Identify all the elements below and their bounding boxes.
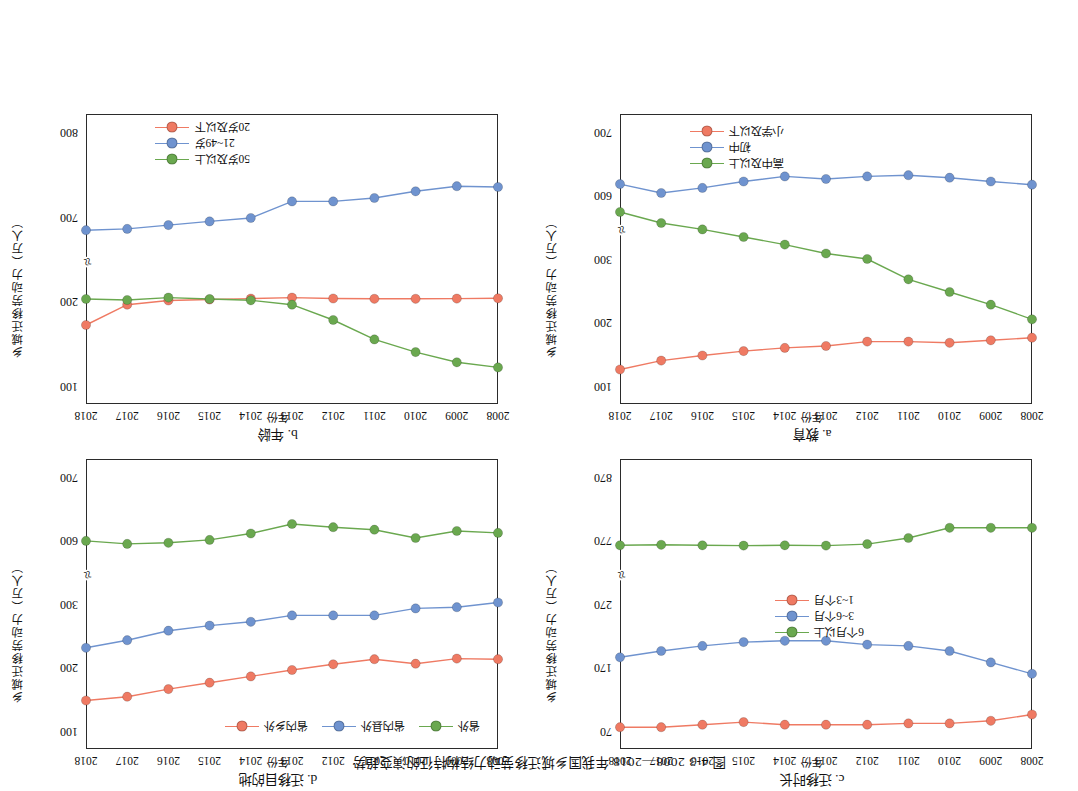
legend-item[interactable]: 20岁及以下	[156, 120, 251, 136]
legend-label: 省外	[456, 719, 480, 735]
data-point	[904, 275, 913, 284]
legend-item[interactable]: 3~6个月	[775, 609, 864, 625]
data-point	[780, 240, 789, 249]
data-point	[863, 337, 872, 346]
legend-swatch-line	[419, 727, 453, 728]
legend-swatch-dot	[702, 126, 713, 137]
legend-swatch-dot	[787, 627, 798, 638]
legend-swatch-dot	[702, 158, 713, 169]
data-point	[164, 221, 173, 230]
legend-label: 省内县外	[359, 719, 405, 735]
data-point	[411, 533, 420, 542]
data-point	[904, 719, 913, 728]
legend-swatch-line	[156, 128, 190, 129]
data-point	[411, 604, 420, 613]
legend-label: 小学及以下	[727, 124, 784, 140]
data-point	[863, 540, 872, 549]
legend-swatch-line	[225, 727, 259, 728]
data-point	[1027, 315, 1036, 324]
legend-swatch-dot	[167, 154, 178, 165]
legend-label: 21~49岁	[193, 136, 235, 152]
data-point	[657, 646, 666, 655]
legend-label: 6个月以上	[812, 625, 864, 641]
data-point	[1027, 523, 1036, 532]
panel-destination: d. 迁移目的地 年份 乡城迁移劳动力（万人） 100200300600700≈…	[18, 361, 538, 791]
legend-swatch-dot	[237, 721, 248, 732]
legend-item[interactable]: 省内县外	[322, 719, 405, 735]
legend-item[interactable]: 省内乡外	[225, 719, 308, 735]
data-point	[986, 336, 995, 345]
data-point	[123, 636, 132, 645]
data-point	[904, 533, 913, 542]
legend-swatch-line	[156, 160, 190, 161]
legend-label: 高中及以上	[727, 156, 784, 172]
data-point	[615, 723, 624, 732]
data-point	[370, 525, 379, 534]
data-point	[287, 300, 296, 309]
data-point	[123, 539, 132, 548]
data-point	[452, 182, 461, 191]
data-point	[739, 638, 748, 647]
legend-swatch-dot	[787, 611, 798, 622]
data-point	[1027, 180, 1036, 189]
legend-swatch-line	[775, 601, 809, 602]
legend-item[interactable]: 50岁及以上	[156, 152, 251, 168]
data-point	[821, 174, 830, 183]
data-point	[81, 696, 90, 705]
legend-item[interactable]: 21~49岁	[156, 136, 251, 152]
data-point	[986, 177, 995, 186]
data-point	[945, 338, 954, 347]
data-point	[205, 678, 214, 687]
data-point	[657, 218, 666, 227]
data-point	[945, 646, 954, 655]
legend-swatch-dot	[702, 142, 713, 153]
legend-label: 省内乡外	[262, 719, 308, 735]
legend-item[interactable]: 初中	[690, 140, 784, 156]
data-point	[615, 653, 624, 662]
data-point	[863, 254, 872, 263]
legend-item[interactable]: 6个月以上	[775, 625, 864, 641]
data-point	[287, 665, 296, 674]
data-point	[287, 197, 296, 206]
data-point	[370, 655, 379, 664]
data-point	[1027, 669, 1036, 678]
data-point	[615, 207, 624, 216]
legend-swatch-dot	[431, 721, 442, 732]
data-point	[657, 540, 666, 549]
data-point	[698, 351, 707, 360]
data-point	[821, 341, 830, 350]
series-line-d-0	[86, 659, 498, 701]
data-point	[780, 172, 789, 181]
data-point	[657, 188, 666, 197]
data-point	[123, 224, 132, 233]
legend-swatch-dot	[167, 122, 178, 133]
data-point	[246, 672, 255, 681]
data-point	[493, 655, 502, 664]
data-point	[81, 226, 90, 235]
data-point	[246, 529, 255, 538]
legend-swatch-line	[322, 727, 356, 728]
data-point	[205, 621, 214, 630]
data-point	[246, 617, 255, 626]
legend-label: 20岁及以下	[193, 120, 251, 136]
data-point	[698, 183, 707, 192]
data-point	[411, 294, 420, 303]
legend-swatch-dot	[787, 595, 798, 606]
legend-item[interactable]: 高中及以上	[690, 156, 784, 172]
legend-item[interactable]: 1~3个月	[775, 593, 864, 609]
data-point	[411, 348, 420, 357]
legend-item[interactable]: 省外	[419, 719, 480, 735]
panel-d-legend: 省外省内县外省内乡外	[225, 719, 480, 735]
data-point	[863, 172, 872, 181]
data-point	[698, 225, 707, 234]
data-point	[945, 287, 954, 296]
series-line-b-1	[86, 186, 498, 230]
data-point	[452, 294, 461, 303]
legend-item[interactable]: 小学及以下	[690, 124, 784, 140]
data-point	[411, 187, 420, 196]
legend-swatch-line	[775, 617, 809, 618]
data-point	[81, 643, 90, 652]
legend-label: 3~6个月	[812, 609, 854, 625]
legend-label: 初中	[727, 140, 751, 156]
